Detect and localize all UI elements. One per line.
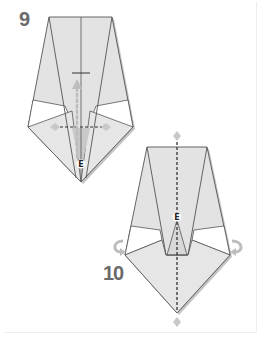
step-10-top-diamond-icon <box>173 131 181 141</box>
instruction-page: E E <box>0 0 265 354</box>
step-9-diagram: E <box>28 17 135 184</box>
step-10-diagram: E <box>115 131 241 327</box>
step-10-bottom-diamond-icon <box>173 317 181 327</box>
step-10-point-label: E <box>174 213 179 222</box>
step-9-point-label: E <box>78 160 83 169</box>
step-9-number: 9 <box>19 8 29 31</box>
step-10-number: 10 <box>103 262 123 285</box>
origami-diagram: E E <box>0 0 265 354</box>
